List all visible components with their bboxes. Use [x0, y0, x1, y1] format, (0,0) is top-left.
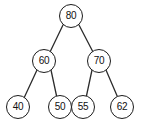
tree-node-55[interactable]: 55 [71, 95, 95, 119]
tree-node-label: 70 [94, 56, 105, 66]
tree-node-label: 80 [66, 11, 77, 21]
tree-edge-n70-n55 [86, 70, 92, 98]
tree-node-62[interactable]: 62 [110, 95, 134, 119]
tree-edge-n60-n50 [51, 70, 57, 98]
tree-node-label: 62 [117, 102, 128, 112]
tree-node-40[interactable]: 40 [6, 95, 30, 119]
tree-node-label: 60 [39, 56, 50, 66]
tree-edge-root-n60 [50, 25, 63, 52]
tree-node-70[interactable]: 70 [87, 49, 111, 73]
tree-node-80[interactable]: 80 [59, 4, 83, 28]
binary-tree-diagram: 80607040505562 [0, 0, 142, 123]
tree-node-60[interactable]: 60 [32, 49, 56, 73]
tree-edge-n60-n40 [24, 70, 37, 98]
tree-edge-root-n70 [79, 25, 93, 52]
tree-node-50[interactable]: 50 [48, 95, 72, 119]
tree-node-label: 40 [13, 102, 24, 112]
tree-edge-n70-n62 [106, 70, 118, 98]
tree-node-label: 50 [55, 102, 66, 112]
tree-node-label: 55 [78, 102, 89, 112]
